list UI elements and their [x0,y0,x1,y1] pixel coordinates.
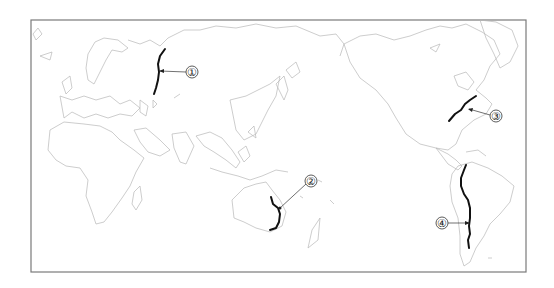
marker-label-1: ① [187,66,197,78]
mountain-line-4 [461,165,470,248]
marker-label-2: ② [306,175,316,187]
marker-1: ① [154,49,198,94]
map-frame [31,20,526,272]
marker-3: ③ [449,96,502,122]
marker-label-4: ④ [437,217,447,229]
arrowhead-3 [468,108,473,112]
world-map: ① ② ③ ④ [0,0,554,288]
marker-4: ④ [436,165,470,248]
marker-2: ② [270,175,317,230]
leader-line-2 [280,184,306,208]
marker-label-3: ③ [491,110,501,122]
mountain-line-2 [270,197,280,230]
leader-dot-2 [279,207,282,210]
